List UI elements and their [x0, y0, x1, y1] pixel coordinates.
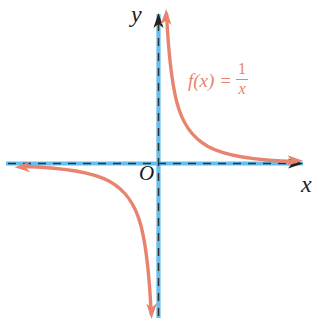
- fraction-denominator: x: [236, 81, 247, 98]
- y-axis-label: y: [131, 2, 142, 26]
- origin-label: O: [139, 163, 154, 184]
- function-equation-fraction: 1 x: [236, 61, 248, 98]
- curve-branch-negative: [22, 167, 151, 315]
- graph-canvas: [0, 0, 323, 328]
- function-equation-label: f(x) = 1 x: [188, 62, 248, 99]
- x-axis-label: x: [301, 172, 312, 196]
- function-equation-lhs: f(x) =: [188, 71, 232, 90]
- fraction-numerator: 1: [236, 61, 248, 78]
- function-graph-figure: y x O f(x) = 1 x: [0, 0, 323, 328]
